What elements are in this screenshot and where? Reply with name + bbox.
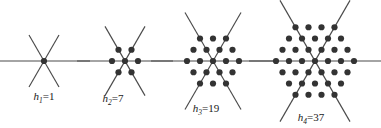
label-value: 1 [49,90,55,102]
lattice-dot [210,58,216,64]
lattice-dot [305,47,311,53]
lattice-dot [325,80,331,86]
lattice-dot [122,58,128,64]
lattice-dot [115,69,121,75]
lattice-dot [305,24,311,30]
lattice-dot [292,47,298,53]
lattice-dot [292,69,298,75]
lattice-dot [338,35,344,41]
lattice-dot [331,69,337,75]
lattice-dot [325,35,331,41]
lattice-dot [338,80,344,86]
figure-label-1: h1=1 [34,90,55,105]
lattice-dot [210,80,216,86]
lattice-dot [203,69,209,75]
lattice-dot [279,69,285,75]
lattice-dot [318,69,324,75]
lattice-dot [299,80,305,86]
lattice-dot [128,69,134,75]
lattice-dot [318,47,324,53]
label-value: 37 [313,111,325,123]
lattice-dot [190,47,196,53]
lattice-dot [325,58,331,64]
lattice-dot [318,92,324,98]
hex-figure-1 [0,35,90,87]
lattice-dot [229,47,235,53]
lattice-dot [286,80,292,86]
lattice-dot [305,69,311,75]
figure-label-2: h2=7 [103,92,124,107]
lattice-dot [305,92,311,98]
lattice-dot [190,69,196,75]
hexagonal-numbers-diagram: h1=1h2=7h3=19h4=37 [0,0,381,128]
figure-label-3: h3=19 [193,102,220,117]
lattice-dot [279,47,285,53]
lattice-dot [203,47,209,53]
lattice-dot [41,58,47,64]
lattice-dot [128,47,134,53]
lattice-dot [216,69,222,75]
lattice-dot [344,47,350,53]
lattice-dot [338,58,344,64]
figure-label-4: h4=37 [298,111,325,126]
figures-group [0,0,381,121]
lattice-dot [229,69,235,75]
label-value: 7 [118,92,124,104]
label-value: 19 [208,102,220,114]
lattice-dot [318,24,324,30]
lattice-dot [331,24,337,30]
lattice-dot [312,35,318,41]
lattice-dot [331,92,337,98]
lattice-dot [292,24,298,30]
lattice-dot [223,58,229,64]
lattice-dot [292,92,298,98]
lattice-dot [286,58,292,64]
lattice-dot [216,47,222,53]
lattice-dot [299,35,305,41]
lattice-dot [197,58,203,64]
lattice-dot [312,80,318,86]
lattice-dot [236,58,242,64]
lattice-dot [331,47,337,53]
lattice-dot [312,58,318,64]
lattice-dot [197,35,203,41]
diagram-canvas: h1=1h2=7h3=19h4=37 [0,0,381,128]
lattice-dot [184,58,190,64]
lattice-dot [299,58,305,64]
lattice-dot [210,35,216,41]
lattice-dot [286,35,292,41]
lattice-dot [223,80,229,86]
lattice-dot [351,58,357,64]
lattice-dot [109,58,115,64]
lattice-dot [135,58,141,64]
lattice-dot [115,47,121,53]
lattice-dot [223,35,229,41]
hex-figure-4 [249,0,381,121]
lattice-dot [344,69,350,75]
lattice-dot [273,58,279,64]
lattice-dot [197,80,203,86]
